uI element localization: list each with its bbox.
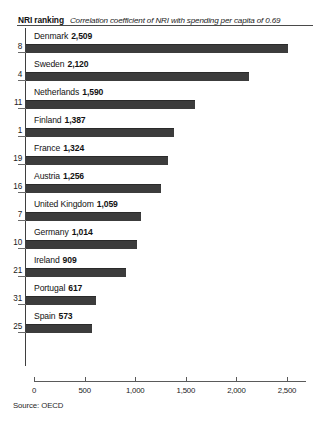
page-title: NRI ranking [18, 15, 64, 25]
bar-value-label: 1,059 [97, 199, 118, 209]
bar-value-label: 617 [68, 283, 82, 293]
rank-value: 11 [0, 98, 22, 107]
x-tick [186, 377, 187, 381]
country-name: Denmark [34, 31, 68, 41]
bar-row: 11Netherlands1,590 [0, 86, 327, 114]
nri-ranking-chart: NRI rankingCorrelation coefficient of NR… [0, 0, 327, 424]
bar-value-label: 573 [58, 311, 72, 321]
rank-tick [18, 80, 26, 81]
bar-value-label: 1,014 [72, 227, 93, 237]
bar-label: France1,324 [34, 143, 84, 153]
plot-area: 8Denmark2,5094Sweden2,12011Netherlands1,… [0, 26, 327, 372]
rank-value: 19 [0, 154, 22, 163]
bar [26, 240, 137, 249]
bar [26, 128, 174, 137]
bar-row: 1Finland1,387 [0, 114, 327, 142]
bar [26, 44, 288, 53]
rank-tick [18, 108, 26, 109]
x-tick-label: 0 [32, 386, 36, 395]
x-tick-label: 2,000 [227, 386, 246, 395]
bar [26, 100, 195, 109]
bar-value-label: 909 [63, 255, 77, 265]
rank-value: 8 [0, 42, 22, 51]
country-name: Portugal [34, 283, 65, 293]
country-name: Germany [34, 227, 69, 237]
chart-subtitle: Correlation coefficient of NRI with spen… [70, 16, 281, 25]
rank-value: 7 [0, 210, 22, 219]
x-tick [287, 377, 288, 381]
bar-row: 25Spain573 [0, 310, 327, 338]
rank-tick [18, 136, 26, 137]
value-axis: 05001,0001,5002,0002,500 [0, 381, 327, 382]
rank-value: 21 [0, 266, 22, 275]
country-name: France [34, 143, 60, 153]
rank-value: 1 [0, 126, 22, 135]
country-name: Netherlands [34, 87, 79, 97]
bar-label: Germany1,014 [34, 227, 93, 237]
source-note: Source: OECD [13, 401, 63, 410]
bar [26, 268, 126, 277]
bar-label: Denmark2,509 [34, 31, 92, 41]
rank-tick [18, 192, 26, 193]
country-name: Sweden [34, 59, 64, 69]
x-tick-label: 500 [78, 386, 90, 395]
bar-label: Austria1,256 [34, 171, 84, 181]
rank-tick [18, 276, 26, 277]
bar-row: 8Denmark2,509 [0, 30, 327, 58]
bar-label: Ireland909 [34, 255, 77, 265]
bar [26, 184, 161, 193]
bar [26, 156, 168, 165]
rank-tick [18, 52, 26, 53]
rank-value: 31 [0, 294, 22, 303]
rank-tick [18, 220, 26, 221]
bar-label: United Kingdom1,059 [34, 199, 118, 209]
rank-tick [18, 332, 26, 333]
bar-value-label: 2,509 [71, 31, 92, 41]
rank-tick [18, 164, 26, 165]
bar-row: 4Sweden2,120 [0, 58, 327, 86]
rank-value: 25 [0, 322, 22, 331]
bar-value-label: 1,324 [63, 143, 84, 153]
rank-value: 10 [0, 238, 22, 247]
rank-tick [18, 248, 26, 249]
country-name: Ireland [34, 255, 60, 265]
bar-label: Portugal617 [34, 283, 82, 293]
rank-value: 4 [0, 70, 22, 79]
bar-row: 19France1,324 [0, 142, 327, 170]
x-tick [34, 377, 35, 381]
bar-label: Finland1,387 [34, 115, 86, 125]
rank-tick [18, 304, 26, 305]
bar [26, 296, 96, 305]
country-name: Austria [34, 171, 60, 181]
bar-value-label: 1,387 [65, 115, 86, 125]
bar-row: 10Germany1,014 [0, 226, 327, 254]
value-axis-line [34, 381, 306, 382]
bar-label: Spain573 [34, 311, 73, 321]
x-tick [85, 377, 86, 381]
country-name: United Kingdom [34, 199, 94, 209]
bar [26, 212, 141, 221]
country-name: Spain [34, 311, 55, 321]
x-tick-label: 1,500 [177, 386, 196, 395]
x-tick [135, 377, 136, 381]
bar-value-label: 2,120 [67, 59, 88, 69]
x-tick [236, 377, 237, 381]
bar-row: 21Ireland909 [0, 254, 327, 282]
country-name: Finland [34, 115, 62, 125]
bar-value-label: 1,590 [82, 87, 103, 97]
bar-row: 7United Kingdom1,059 [0, 198, 327, 226]
x-tick-label: 2,500 [278, 386, 297, 395]
bar-row: 31Portugal617 [0, 282, 327, 310]
bar-row: 16Austria1,256 [0, 170, 327, 198]
bar-label: Netherlands1,590 [34, 87, 103, 97]
bar-label: Sweden2,120 [34, 59, 88, 69]
bar-value-label: 1,256 [63, 171, 84, 181]
rank-value: 16 [0, 182, 22, 191]
x-tick-label: 1,000 [126, 386, 145, 395]
bar [26, 72, 249, 81]
chart-header: NRI rankingCorrelation coefficient of NR… [18, 9, 313, 23]
bar [26, 324, 92, 333]
